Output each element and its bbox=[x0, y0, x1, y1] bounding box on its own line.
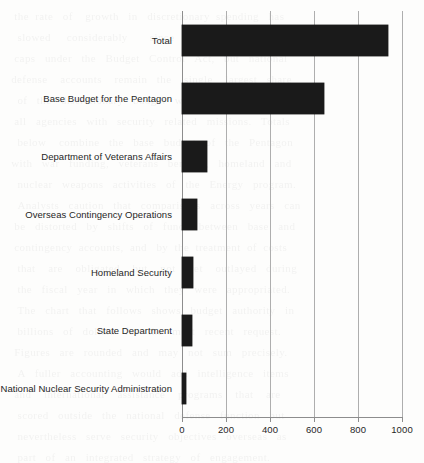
bar-row bbox=[182, 301, 402, 359]
tick-mark-1000 bbox=[402, 417, 403, 422]
bar-row bbox=[182, 359, 402, 417]
category-label: State Department bbox=[97, 325, 172, 336]
category-label: Department of Veterans Affairs bbox=[41, 151, 172, 162]
bar bbox=[182, 199, 197, 230]
category-label: Base Budget for the Pentagon bbox=[43, 93, 172, 104]
tick-label-800: 800 bbox=[350, 424, 366, 435]
gridline-1000 bbox=[402, 11, 403, 417]
bar-row bbox=[182, 69, 402, 127]
bar bbox=[182, 25, 388, 56]
tick-label-400: 400 bbox=[262, 424, 278, 435]
bar bbox=[182, 315, 192, 346]
category-label: National Nuclear Security Administration bbox=[1, 383, 173, 394]
category-label: Total bbox=[152, 35, 172, 46]
category-label: Overseas Contingency Operations bbox=[25, 209, 172, 220]
bar-row bbox=[182, 127, 402, 185]
tick-mark-200 bbox=[226, 417, 227, 422]
tick-mark-400 bbox=[270, 417, 271, 422]
tick-mark-800 bbox=[358, 417, 359, 422]
bar-chart-figure: the rate of growth in discretionary spen… bbox=[0, 0, 424, 463]
bar bbox=[182, 257, 193, 288]
tick-mark-0 bbox=[182, 417, 183, 422]
tick-mark-600 bbox=[314, 417, 315, 422]
category-label-column: TotalBase Budget for the PentagonDepartm… bbox=[0, 11, 177, 417]
bar-row bbox=[182, 243, 402, 301]
tick-label-1000: 1000 bbox=[391, 424, 413, 435]
bar bbox=[182, 141, 207, 172]
category-label: Homeland Security bbox=[91, 267, 172, 278]
tick-label-600: 600 bbox=[306, 424, 322, 435]
bar bbox=[182, 373, 186, 404]
bar-row bbox=[182, 11, 402, 69]
x-axis-line bbox=[182, 417, 403, 418]
bar bbox=[182, 83, 324, 114]
plot-area bbox=[182, 11, 402, 417]
tick-label-0: 0 bbox=[179, 424, 184, 435]
bar-row bbox=[182, 185, 402, 243]
tick-label-200: 200 bbox=[218, 424, 234, 435]
